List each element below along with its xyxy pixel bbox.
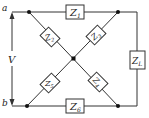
- arrow-up-icon: [10, 12, 15, 19]
- terminal-b-label: b: [2, 98, 8, 108]
- arrow-down-icon: [10, 99, 15, 106]
- node-dot: [25, 104, 29, 108]
- bridge-circuit-diagram: Z1 Z6 ZL Z2 Z3 Z5 Z4 a b V: [0, 0, 149, 118]
- node-dot: [72, 57, 76, 61]
- impedance-z1: Z1: [66, 5, 84, 19]
- impedance-zl: ZL: [130, 51, 145, 69]
- node-dot: [116, 104, 120, 108]
- impedance-z6: Z6: [66, 99, 84, 113]
- voltage-label: V: [8, 54, 17, 65]
- node-dot: [116, 10, 120, 14]
- terminal-a-label: a: [2, 3, 7, 13]
- node-dot: [27, 10, 31, 14]
